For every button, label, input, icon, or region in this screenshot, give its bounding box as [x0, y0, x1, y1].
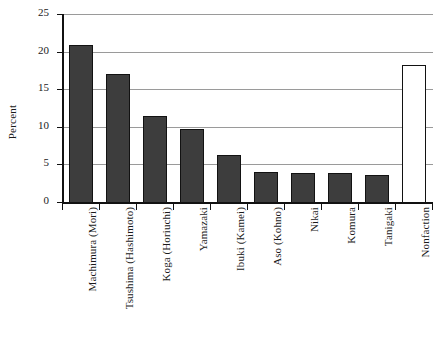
bar-chart: Percent 0510152025 Machimura (Mori)Tsush…: [0, 0, 444, 337]
x-axis-label: Nikai: [308, 207, 320, 232]
gridline: [64, 14, 433, 15]
bar: [328, 173, 352, 203]
y-tick: 15: [57, 89, 63, 90]
y-tick: 20: [57, 52, 63, 53]
bar: [402, 65, 426, 203]
x-axis-label: Nonfaction: [419, 207, 431, 257]
bar: [217, 155, 241, 203]
plot-area: 0510152025: [62, 15, 432, 203]
bar: [106, 74, 130, 203]
bar: [69, 45, 93, 203]
bar: [365, 175, 389, 203]
y-tick: 10: [57, 127, 63, 128]
x-axis-label: Ibuki (Kamei): [234, 207, 246, 271]
y-tick-label: 10: [23, 119, 49, 131]
y-tick: 5: [57, 164, 63, 165]
y-tick-label: 15: [23, 81, 49, 93]
x-axis-label: Machimura (Mori): [86, 207, 98, 291]
x-axis-label: Komura: [345, 207, 357, 244]
y-tick: 0: [57, 202, 63, 203]
y-tick-label: 25: [23, 6, 49, 18]
y-tick-label: 20: [23, 44, 49, 56]
bar: [291, 173, 315, 203]
bar: [143, 116, 167, 203]
x-axis-label: Yamazaki: [197, 207, 209, 251]
x-axis-label: Tsushima (Hashimoto): [123, 207, 135, 309]
y-tick: 25: [57, 14, 63, 15]
y-tick-label: 0: [23, 194, 49, 206]
x-axis-labels: Machimura (Mori)Tsushima (Hashimoto)Koga…: [62, 207, 434, 332]
x-axis-label: Koga (Horiuchi): [160, 207, 172, 282]
y-tick-label: 5: [23, 156, 49, 168]
x-axis-label: Aso (Kohno): [271, 207, 283, 266]
bar: [254, 172, 278, 203]
gridline: [64, 52, 433, 53]
bar: [180, 129, 204, 203]
y-axis-line: [62, 14, 64, 204]
y-axis-title: Percent: [6, 82, 18, 162]
x-axis-label: Tanigaki: [382, 207, 394, 246]
